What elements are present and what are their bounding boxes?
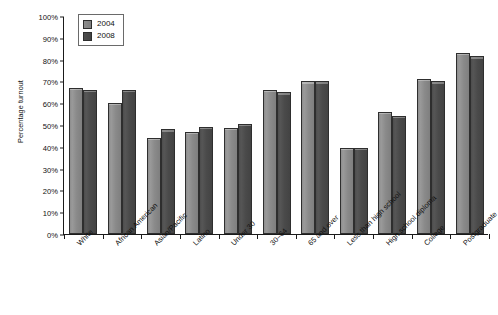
- bar-2008: [199, 127, 213, 234]
- bar-group: [108, 17, 136, 234]
- bar-2004: [301, 81, 315, 234]
- bar-group: [263, 17, 291, 234]
- x-axis-tick-mark: [450, 234, 451, 239]
- bar-group: [340, 17, 368, 234]
- bar-2008: [238, 124, 252, 234]
- legend-swatch-icon-2004: [83, 20, 92, 29]
- bar-2008: [470, 56, 484, 234]
- x-axis-tick-mark: [141, 234, 142, 239]
- x-axis-tick-mark: [489, 234, 490, 239]
- bar-2004: [456, 53, 470, 234]
- bar-2004: [340, 148, 354, 234]
- x-axis-tick-mark: [64, 234, 65, 239]
- bar-chart: Percentage turnout 0%10%20%30%40%50%60%7…: [0, 0, 498, 315]
- x-axis-tick-mark: [296, 234, 297, 239]
- x-axis-labels: WhiteAfrican AmericanAsian/PacificLatino…: [63, 241, 488, 315]
- x-axis-tick-mark: [334, 234, 335, 239]
- legend-label-2008: 2008: [97, 32, 115, 40]
- legend-label-2004: 2004: [97, 20, 115, 28]
- x-axis-tick-mark: [412, 234, 413, 239]
- legend-swatch-icon-2008: [83, 32, 92, 41]
- bar-2004: [69, 88, 83, 234]
- legend-item-2008: 2008: [83, 30, 115, 42]
- x-axis-tick-mark: [373, 234, 374, 239]
- bar-2008: [315, 81, 329, 234]
- bar-group: [69, 17, 97, 234]
- bar-2008: [161, 129, 175, 234]
- bar-2008: [122, 90, 136, 234]
- bar-group: [185, 17, 213, 234]
- x-axis-tick-mark: [103, 234, 104, 239]
- bar-2008: [83, 90, 97, 234]
- x-axis-tick-mark: [180, 234, 181, 239]
- bar-2008: [431, 81, 445, 234]
- legend-item-2004: 2004: [83, 18, 115, 30]
- bar-2008: [277, 92, 291, 234]
- bar-group: [456, 17, 484, 234]
- bar-2004: [224, 128, 238, 234]
- bar-2004: [263, 90, 277, 234]
- bar-2004: [108, 103, 122, 234]
- x-axis-tick-mark: [219, 234, 220, 239]
- y-axis-title: Percentage turnout: [16, 47, 25, 177]
- bar-2008: [392, 116, 406, 234]
- bar-group: [224, 17, 252, 234]
- chart-legend: 2004 2008: [78, 14, 124, 46]
- bar-2004: [147, 138, 161, 234]
- bar-2004: [185, 132, 199, 234]
- x-axis-tick-mark: [257, 234, 258, 239]
- bar-group: [301, 17, 329, 234]
